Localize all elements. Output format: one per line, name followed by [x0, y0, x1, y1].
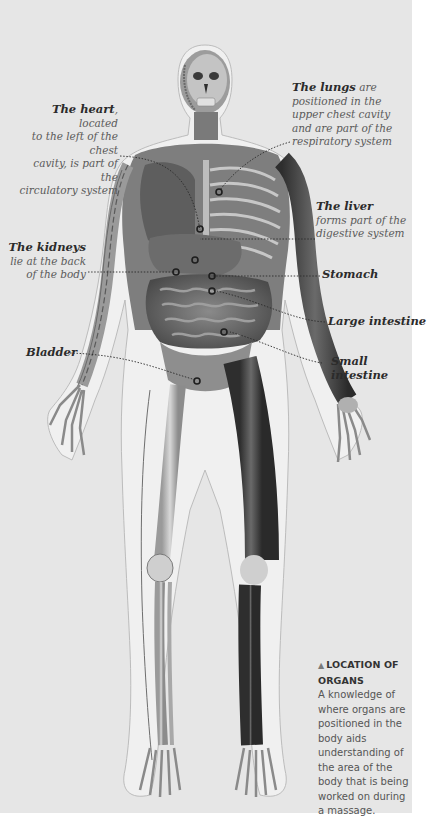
label-liver: The liver forms part of the digestive sy…: [316, 200, 412, 241]
label-large-intestine: Large intestine: [328, 315, 426, 329]
skull: [180, 50, 230, 114]
neck: [194, 112, 218, 140]
caption-body: A knowledge of where organs are position…: [318, 688, 414, 819]
triangle-up-icon: ▲: [318, 661, 324, 670]
label-heart: The heart, located to the left of the ch…: [18, 103, 118, 198]
label-lungs: The lungs are positioned in the upper ch…: [292, 81, 412, 149]
label-stomach: Stomach: [322, 268, 378, 282]
label-bladder: Bladder: [26, 346, 77, 360]
caption-title: ▲LOCATION OF ORGANS: [318, 658, 414, 688]
label-kidneys: The kidneys lie at the back of the body: [0, 241, 86, 282]
label-small-intestine: Small intestine: [331, 355, 388, 382]
figure-caption: ▲LOCATION OF ORGANS A knowledge of where…: [318, 658, 414, 819]
